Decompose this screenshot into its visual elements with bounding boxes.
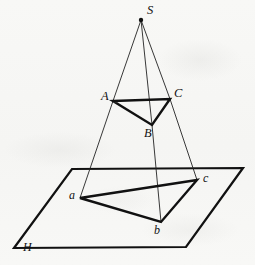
geometry-figure: S A C B a c b H	[0, 0, 255, 265]
point-label-b: B	[144, 127, 152, 140]
point-label-s: S	[147, 4, 153, 17]
point-label-a: A	[101, 90, 109, 103]
point-label-c: C	[174, 87, 182, 100]
point-label-c-lower: c	[203, 172, 208, 184]
vertex-dot-s	[139, 18, 143, 22]
projection-ray-s-a	[80, 20, 141, 198]
triangle-abc-upper	[113, 99, 170, 125]
point-label-a-lower: a	[69, 189, 75, 201]
triangle-abc-lower	[80, 180, 197, 222]
plane-label-h: H	[23, 241, 32, 253]
plane-h-outline	[14, 168, 243, 248]
point-label-b-lower: b	[154, 224, 160, 236]
diagram-canvas	[0, 0, 255, 265]
